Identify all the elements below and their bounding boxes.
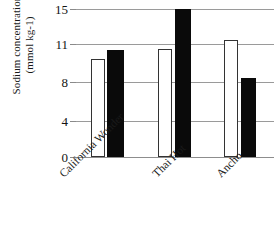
y-axis-title-line2: (mmol kg-1) <box>23 0 36 120</box>
y-axis-title-line1: Sodium concentration <box>10 0 22 94</box>
bar-thai-hot-black <box>175 9 191 157</box>
y-axis-title: Sodium concentration (mmol kg-1) <box>10 0 36 120</box>
y-axis-tick-labels: 15 11 8 4 0 <box>40 0 68 250</box>
y-tick-label-15: 15 <box>42 3 68 16</box>
y-tick-label-4: 4 <box>42 115 68 128</box>
y-tick-label-8: 8 <box>42 76 68 89</box>
bar-thai-hot-white <box>158 49 172 157</box>
bar-ancho-white <box>224 40 238 157</box>
bar-california-wonder-black <box>107 50 124 157</box>
bar-chart: Sodium concentration (mmol kg-1) 15 11 8… <box>0 0 278 250</box>
y-tick-label-11: 11 <box>42 38 68 51</box>
bar-ancho-black <box>241 78 256 157</box>
